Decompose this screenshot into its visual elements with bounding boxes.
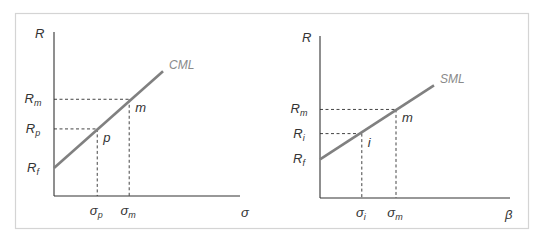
x-axis-label: β [504,207,513,222]
y-axis-label: R [302,30,311,45]
x-axis-label: σ [241,205,250,220]
y-tick-label-Rm-subscript: m [300,108,308,118]
y-tick-label-Rf-main: R [293,151,302,166]
y-tick-label-Ri-main: R [293,126,302,141]
y-tick-label-Rp-main: R [26,121,35,136]
x-tick-label-σm-subscript: m [395,212,403,222]
y-tick-label-Rm-main: R [25,91,34,106]
point-label-m: m [135,100,146,115]
y-tick-label-Rm-subscript: m [34,98,42,108]
x-tick-label-σm-subscript: m [128,210,136,220]
y-tick-label-Rp-subscript: p [34,128,40,138]
y-axis-label: R [35,26,44,41]
y-tick-label-Rf-main: R [27,160,36,175]
y-tick-label-Rm-main: R [291,101,300,116]
point-label-m: m [402,110,413,125]
cml-label: CML [169,58,194,72]
cml-sml-figure: CMLRσRmRpRfσpσmpm SMLRβRmRiRfσiσmim [0,0,541,243]
point-label-p: p [102,130,110,145]
sml-label: SML [440,72,465,86]
x-tick-label-σp-subscript: p [97,210,103,220]
